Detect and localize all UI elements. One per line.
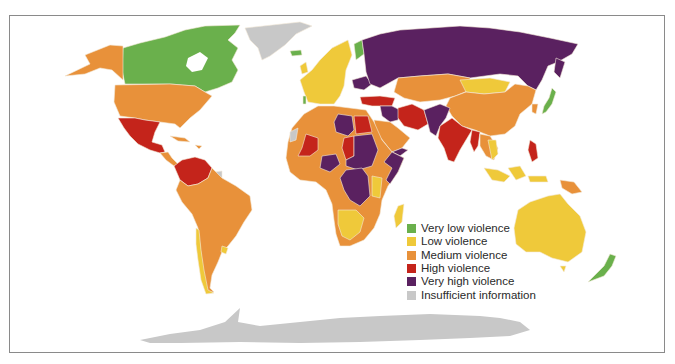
legend-item-medium: Medium violence xyxy=(407,249,536,262)
region-papua-new-guinea xyxy=(560,180,582,194)
region-central-america xyxy=(160,152,178,166)
region-south-america xyxy=(176,168,252,292)
region-antarctica xyxy=(140,308,530,343)
region-japan xyxy=(542,88,556,114)
region-alaska xyxy=(65,45,123,80)
swatch-very-low xyxy=(407,224,416,233)
swatch-medium xyxy=(407,251,416,260)
swatch-high xyxy=(407,264,416,273)
legend-label: Low violence xyxy=(421,235,487,248)
region-madagascar xyxy=(394,204,404,228)
region-turkey xyxy=(360,96,395,106)
region-philippines xyxy=(528,140,538,162)
legend-label: Very low violence xyxy=(421,222,510,235)
region-canada xyxy=(122,25,240,92)
region-new-zealand xyxy=(588,254,616,282)
region-iran xyxy=(398,104,428,130)
region-indonesia xyxy=(484,166,548,182)
map-legend: Very low violence Low violence Medium vi… xyxy=(407,222,536,302)
legend-item-insufficient: Insufficient information xyxy=(407,288,536,301)
world-map xyxy=(0,0,675,364)
region-mongolia xyxy=(460,78,510,94)
legend-item-high: High violence xyxy=(407,262,536,275)
legend-label: Insufficient information xyxy=(421,289,536,302)
region-iceland xyxy=(290,50,302,56)
region-myanmar xyxy=(470,130,480,152)
swatch-insufficient xyxy=(407,291,416,300)
region-mexico xyxy=(118,118,165,153)
legend-label: Very high violence xyxy=(421,275,514,288)
legend-item-very-low: Very low violence xyxy=(407,222,536,235)
swatch-low xyxy=(407,237,416,246)
legend-label: High violence xyxy=(421,262,490,275)
legend-item-low: Low violence xyxy=(407,235,536,248)
legend-label: Medium violence xyxy=(421,249,507,262)
region-syria-iraq xyxy=(380,106,400,122)
legend-item-very-high: Very high violence xyxy=(407,275,536,288)
swatch-very-high xyxy=(407,277,416,286)
